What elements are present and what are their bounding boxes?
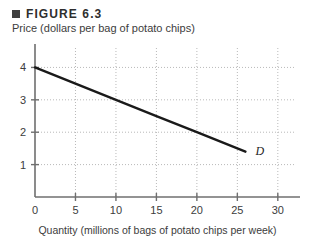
demand-curve-label: D	[254, 144, 264, 158]
x-tick-label: 10	[110, 204, 122, 216]
y-tick-label: 3	[20, 94, 26, 106]
demand-curve-group: D	[35, 67, 264, 157]
tick-labels: 0510152025301234	[20, 61, 284, 216]
grid-lines	[35, 48, 294, 197]
x-tick-label: 20	[191, 204, 203, 216]
chart-plot-area: 0510152025301234 D	[0, 0, 315, 246]
axis-ticks	[31, 67, 278, 201]
x-tick-label: 15	[150, 204, 162, 216]
y-tick-label: 4	[20, 61, 26, 73]
x-tick-label: 30	[272, 204, 284, 216]
x-tick-label: 25	[231, 204, 243, 216]
x-tick-label: 5	[72, 204, 78, 216]
demand-curve	[35, 67, 245, 151]
y-tick-label: 1	[20, 159, 26, 171]
x-tick-label: 0	[32, 204, 38, 216]
y-tick-label: 2	[20, 126, 26, 138]
